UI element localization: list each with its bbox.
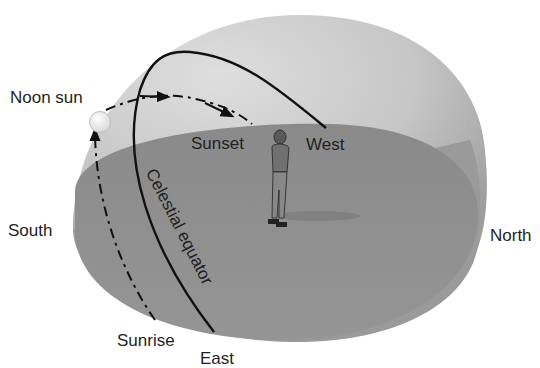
person-shadow: [276, 211, 360, 221]
arrow-noon: [140, 96, 168, 97]
west-label: West: [306, 136, 344, 153]
noon-sun-icon: [90, 112, 111, 133]
north-label: North: [490, 227, 532, 244]
south-label: South: [8, 222, 52, 239]
celestial-sphere-diagram: [0, 0, 540, 368]
noon-sun-label: Noon sun: [10, 89, 83, 106]
sunset-label: Sunset: [191, 135, 244, 152]
sunrise-label: Sunrise: [117, 332, 175, 349]
east-label: East: [200, 350, 234, 367]
